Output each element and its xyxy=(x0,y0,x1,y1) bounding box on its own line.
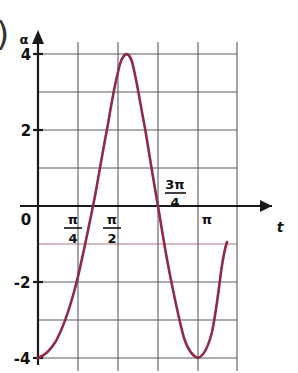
y-label-neg4: -4 xyxy=(14,350,31,368)
x-label-pi-over-2-numerator: π xyxy=(107,212,117,227)
x-label-pi-over-4-numerator: π xyxy=(68,212,78,227)
x-label-pi: π xyxy=(202,212,212,227)
y-label-2: 2 xyxy=(21,122,31,140)
x-axis-label: t xyxy=(277,219,285,235)
x-axis-arrow xyxy=(260,200,272,212)
origin-label: 0 xyxy=(21,211,31,229)
x-label-3pi-over-4-numerator: 3π xyxy=(165,177,184,192)
x-label-pi-over-4-denominator: 4 xyxy=(68,231,77,246)
y-label-neg2: -2 xyxy=(14,274,31,292)
y-axis-arrow xyxy=(32,30,44,44)
axes xyxy=(20,30,272,365)
chart-svg: α t 0 4 2 -2 -4 π 4 π 2 3π 4 π xyxy=(0,0,298,373)
y-axis-label: α xyxy=(20,32,29,47)
x-label-pi-over-4: π 4 xyxy=(64,212,82,246)
y-label-4: 4 xyxy=(21,46,31,64)
chart-figure: α t 0 4 2 -2 -4 π 4 π 2 3π 4 π xyxy=(0,0,298,373)
x-label-3pi-over-4-denominator: 4 xyxy=(170,195,179,210)
x-label-pi-over-2-denominator: 2 xyxy=(107,231,116,246)
